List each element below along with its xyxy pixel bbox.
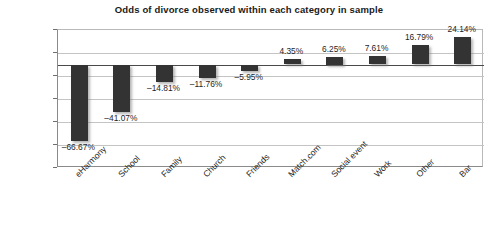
bar-value-label: 24.14% (432, 24, 492, 34)
bar (284, 59, 301, 64)
bar (326, 57, 343, 64)
y-tick-mark (53, 167, 57, 168)
bar-value-label: –41.07% (91, 113, 151, 123)
bar-value-label: –66.67% (48, 142, 108, 152)
bar-value-label: 7.61% (347, 43, 407, 53)
chart-title: Odds of divorce observed within each cat… (0, 4, 498, 15)
bar (113, 65, 130, 112)
bar (199, 65, 216, 79)
bar (412, 45, 429, 64)
bar (71, 65, 88, 142)
bar (241, 65, 258, 72)
bar (454, 37, 471, 65)
bar (369, 56, 386, 65)
gridline (58, 145, 484, 146)
bar (156, 65, 173, 82)
divorce-odds-bar-chart: Odds of divorce observed within each cat… (0, 0, 498, 228)
bar-value-label: –5.95% (219, 72, 279, 82)
